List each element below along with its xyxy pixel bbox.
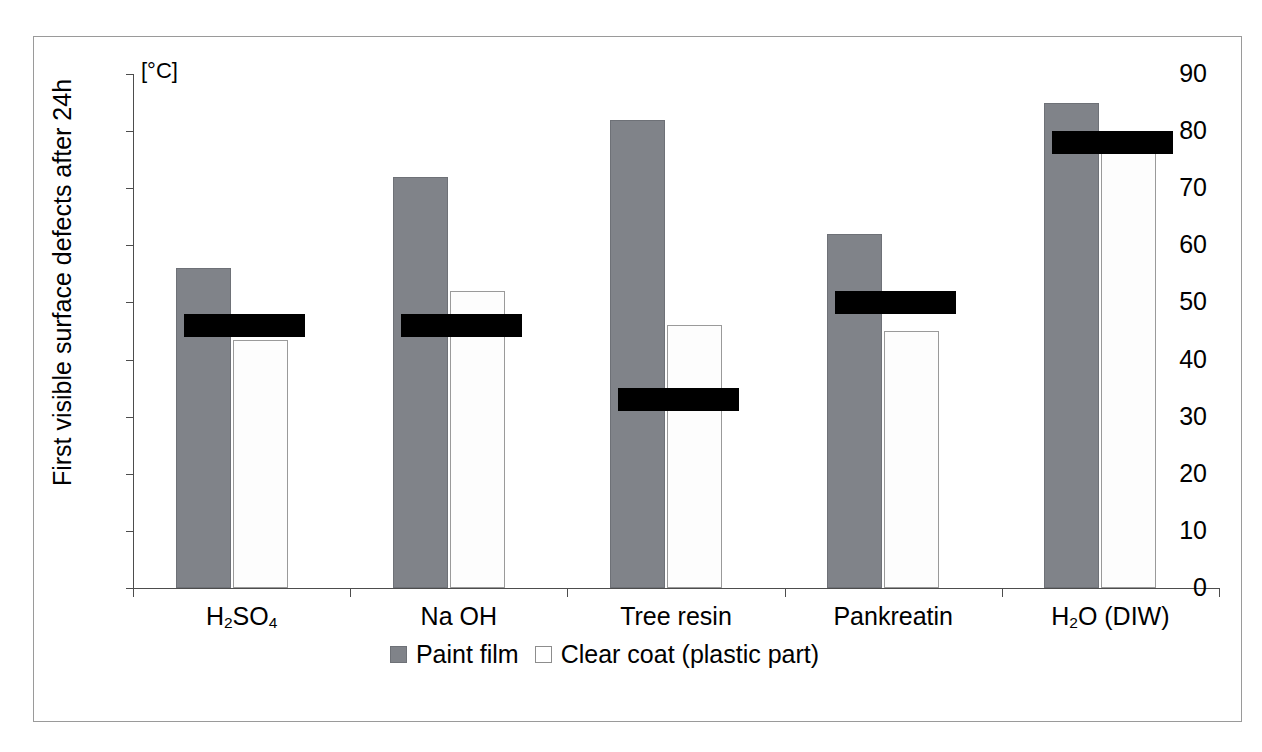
chart-page: First visible surface defects after 24h … [0, 0, 1262, 752]
x-tick-mark [785, 588, 786, 597]
bar-paint-film [1044, 103, 1099, 588]
bar-paint-film [610, 120, 665, 588]
y-tick-mark [126, 474, 133, 475]
legend-swatch-paint-film-icon [390, 646, 407, 663]
bar-clear-coat [884, 331, 939, 588]
y-tick-mark [126, 131, 133, 132]
y-tick-mark [126, 188, 133, 189]
x-axis-line [133, 588, 1219, 589]
bar-paint-film [393, 177, 448, 588]
bar-paint-film [827, 234, 882, 588]
y-tick-label: 90 [1147, 61, 1207, 86]
legend-label: Paint film [416, 640, 519, 669]
overlay-band [1052, 131, 1173, 154]
legend-item[interactable]: Clear coat (plastic part) [535, 640, 819, 669]
legend-label: Clear coat (plastic part) [561, 640, 819, 669]
y-tick-mark [126, 417, 133, 418]
overlay-band [401, 314, 522, 337]
chart-legend: Paint filmClear coat (plastic part) [0, 640, 1209, 669]
bar-clear-coat [1101, 131, 1156, 588]
x-tick-mark [133, 588, 134, 597]
y-axis-title: First visible surface defects after 24h [48, 53, 77, 513]
legend-swatch-clear-coat-icon [535, 646, 552, 663]
x-category-label: Tree resin [567, 602, 784, 631]
x-category-label: Pankreatin [785, 602, 1002, 631]
x-tick-mark [567, 588, 568, 597]
legend-item[interactable]: Paint film [390, 640, 519, 669]
y-tick-mark [126, 360, 133, 361]
y-tick-mark [126, 588, 133, 589]
y-tick-mark [126, 531, 133, 532]
y-tick-mark [126, 302, 133, 303]
overlay-band [618, 388, 739, 411]
x-tick-mark [1002, 588, 1003, 597]
y-axis-unit-label: [°C] [141, 58, 178, 84]
plot-area: [°C] 9080706050403020100 H2SO4Na OHTree … [133, 74, 1219, 588]
x-tick-mark [350, 588, 351, 597]
y-axis-line [133, 74, 134, 588]
x-tick-mark [1219, 588, 1220, 597]
x-category-label: H2O (DIW) [1002, 602, 1219, 632]
bar-clear-coat [667, 325, 722, 588]
overlay-band [835, 291, 956, 314]
y-tick-mark [126, 245, 133, 246]
x-category-label: Na OH [350, 602, 567, 631]
y-tick-mark [126, 74, 133, 75]
overlay-band [184, 314, 305, 337]
x-category-label: H2SO4 [133, 602, 350, 632]
bar-clear-coat [233, 340, 288, 588]
